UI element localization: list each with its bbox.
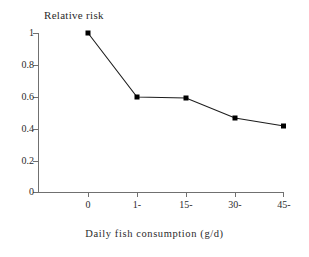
- x-tick-label: 0: [68, 199, 108, 210]
- x-tick-label: 45-: [264, 199, 304, 210]
- x-axis-title: Daily fish consumption (g/d): [0, 228, 309, 239]
- x-tick-label: 30-: [215, 199, 255, 210]
- x-axis-tick-labels: 0 1- 15- 30- 45-: [0, 0, 309, 257]
- x-tick-label: 1-: [117, 199, 157, 210]
- chart-figure: Relative risk: [0, 0, 309, 257]
- x-tick-label: 15-: [166, 199, 206, 210]
